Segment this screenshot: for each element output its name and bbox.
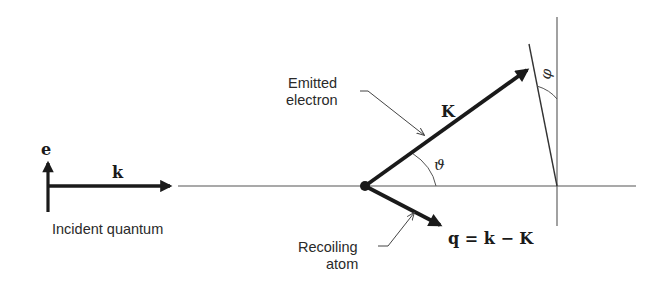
emitted-electron-leader [360,91,424,135]
recoil-momentum-vector-q [365,186,440,225]
label-q-equation: q = k − K [448,229,534,248]
label-k: k [112,163,124,182]
electron-momentum-vector-K [365,70,527,186]
label-emitted: Emitted [288,75,337,91]
label-incident-quantum: Incident quantum [52,221,163,237]
label-phi: φ [536,67,556,81]
label-recoiling: Recoiling [298,239,358,255]
label-K: K [441,102,456,121]
label-electron: electron [286,92,338,108]
slanted-reference-line [529,44,557,186]
diagram-canvas: e k Incident quantum Emitted electron K … [0,0,664,282]
label-theta: ϑ [434,156,445,174]
recoiling-atom-leader [378,213,414,246]
atom-dot [360,181,370,191]
theta-angle-arc [412,153,436,186]
label-atom: atom [326,256,358,272]
label-e: e [41,140,51,159]
